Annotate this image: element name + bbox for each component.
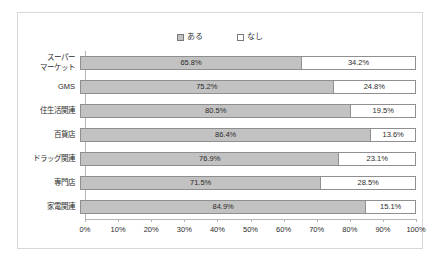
bar-segment-aru[interactable]: 76.9% bbox=[80, 152, 338, 166]
category-label: 専門店 bbox=[26, 178, 80, 188]
x-axis-tick-label: 60% bbox=[276, 225, 291, 234]
bar-value-label: 15.1% bbox=[380, 203, 401, 211]
category-label: 百貨店 bbox=[26, 130, 80, 140]
legend-label: なし bbox=[247, 33, 263, 41]
x-axis-tick-label: 0% bbox=[80, 225, 91, 234]
stacked-bar[interactable]: 71.5%28.5% bbox=[80, 176, 416, 190]
bar-row: ドラッグ関連76.9%23.1% bbox=[26, 147, 416, 171]
bar-value-label: 71.5% bbox=[190, 179, 211, 187]
bar-value-label: 13.6% bbox=[383, 131, 404, 139]
stacked-bar[interactable]: 65.8%34.2% bbox=[80, 56, 416, 70]
x-axis-tick bbox=[85, 219, 86, 222]
x-axis-tick bbox=[383, 219, 384, 222]
category-label: 住生活関連 bbox=[26, 106, 80, 116]
bar-segment-nashi[interactable]: 13.6% bbox=[370, 128, 416, 142]
category-label: スーパー マーケット bbox=[26, 53, 80, 73]
bar-row: 百貨店86.4%13.6% bbox=[26, 123, 416, 147]
bar-value-label: 19.5% bbox=[373, 107, 394, 115]
x-axis-tick-label: 50% bbox=[243, 225, 258, 234]
bar-rows: スーパー マーケット65.8%34.2%GMS75.2%24.8%住生活関連80… bbox=[26, 51, 416, 219]
x-axis-tick-label: 30% bbox=[177, 225, 192, 234]
bar-value-label: 75.2% bbox=[196, 83, 217, 91]
x-axis-tick bbox=[118, 219, 119, 222]
x-axis-tick-label: 100% bbox=[406, 225, 425, 234]
x-axis-tick bbox=[350, 219, 351, 222]
bar-segment-aru[interactable]: 71.5% bbox=[80, 176, 320, 190]
bar-value-label: 86.4% bbox=[215, 131, 236, 139]
stacked-bar[interactable]: 80.5%19.5% bbox=[80, 104, 416, 118]
x-axis-tick bbox=[217, 219, 218, 222]
stacked-bar[interactable]: 84.9%15.1% bbox=[80, 200, 416, 214]
bar-row: スーパー マーケット65.8%34.2% bbox=[26, 51, 416, 75]
chart-legend: あるなし bbox=[18, 33, 422, 41]
x-axis-tick bbox=[251, 219, 252, 222]
bar-segment-nashi[interactable]: 24.8% bbox=[333, 80, 416, 94]
x-axis-tick-label: 40% bbox=[210, 225, 225, 234]
bar-segment-nashi[interactable]: 19.5% bbox=[350, 104, 416, 118]
empty-white-swatch-icon bbox=[237, 34, 244, 41]
x-axis-tick-label: 10% bbox=[111, 225, 126, 234]
bar-segment-nashi[interactable]: 34.2% bbox=[301, 56, 416, 70]
filled-gray-swatch-icon bbox=[177, 34, 184, 41]
bar-value-label: 28.5% bbox=[357, 179, 378, 187]
bar-value-label: 24.8% bbox=[364, 83, 385, 91]
bar-row: GMS75.2%24.8% bbox=[26, 75, 416, 99]
category-label: GMS bbox=[26, 82, 80, 92]
bar-segment-aru[interactable]: 80.5% bbox=[80, 104, 350, 118]
stacked-bar[interactable]: 75.2%24.8% bbox=[80, 80, 416, 94]
legend-label: ある bbox=[187, 33, 203, 41]
bar-row: 住生活関連80.5%19.5% bbox=[26, 99, 416, 123]
category-label: ドラッグ関連 bbox=[26, 154, 80, 164]
bar-segment-nashi[interactable]: 23.1% bbox=[338, 152, 416, 166]
bar-segment-aru[interactable]: 84.9% bbox=[80, 200, 365, 214]
x-axis-tick bbox=[184, 219, 185, 222]
chart-frame: あるなし スーパー マーケット65.8%34.2%GMS75.2%24.8%住生… bbox=[17, 12, 423, 249]
legend-entry[interactable]: ある bbox=[177, 33, 203, 41]
bar-segment-aru[interactable]: 86.4% bbox=[80, 128, 370, 142]
bar-value-label: 34.2% bbox=[348, 59, 369, 67]
bar-segment-aru[interactable]: 75.2% bbox=[80, 80, 333, 94]
x-axis-tick-label: 20% bbox=[144, 225, 159, 234]
bar-segment-nashi[interactable]: 28.5% bbox=[320, 176, 416, 190]
bar-segment-aru[interactable]: 65.8% bbox=[80, 56, 301, 70]
x-axis-tick bbox=[151, 219, 152, 222]
x-axis-tick-label: 80% bbox=[342, 225, 357, 234]
bar-segment-nashi[interactable]: 15.1% bbox=[365, 200, 416, 214]
bar-row: 専門店71.5%28.5% bbox=[26, 171, 416, 195]
x-axis-tick-label: 70% bbox=[309, 225, 324, 234]
stacked-bar[interactable]: 76.9%23.1% bbox=[80, 152, 416, 166]
x-axis: 0%10%20%30%40%50%60%70%80%90%100% bbox=[85, 219, 416, 245]
bar-row: 家電関連84.9%15.1% bbox=[26, 195, 416, 219]
bar-value-label: 23.1% bbox=[367, 155, 388, 163]
x-axis-tick bbox=[317, 219, 318, 222]
bar-value-label: 65.8% bbox=[180, 59, 201, 67]
plot-area: スーパー マーケット65.8%34.2%GMS75.2%24.8%住生活関連80… bbox=[26, 51, 416, 240]
x-axis-tick-label: 90% bbox=[375, 225, 390, 234]
bar-value-label: 80.5% bbox=[205, 107, 226, 115]
legend-entry[interactable]: なし bbox=[237, 33, 263, 41]
bar-value-label: 84.9% bbox=[212, 203, 233, 211]
stacked-bar[interactable]: 86.4%13.6% bbox=[80, 128, 416, 142]
x-axis-tick bbox=[284, 219, 285, 222]
category-label: 家電関連 bbox=[26, 202, 80, 212]
x-axis-tick bbox=[416, 219, 417, 222]
bar-value-label: 76.9% bbox=[199, 155, 220, 163]
